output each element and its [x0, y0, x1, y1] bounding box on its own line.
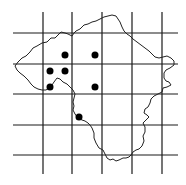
grid-lines: [13, 12, 178, 174]
region-map: [0, 0, 186, 185]
site-marker-3: [47, 68, 54, 75]
site-marker-6: [92, 84, 99, 91]
site-marker-5: [47, 84, 54, 91]
site-marker-1: [62, 52, 69, 59]
site-marker-2: [92, 52, 99, 59]
site-marker-4: [62, 68, 69, 75]
site-marker-7: [76, 114, 83, 121]
